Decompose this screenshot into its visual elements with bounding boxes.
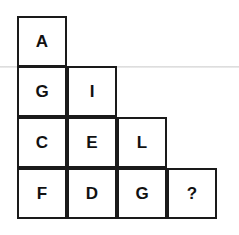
cell-r4-c2: D [67,168,117,219]
cell-r3-c3: L [117,117,167,168]
cell-r4-c4-question: ? [167,168,217,219]
cell-r4-c3: G [117,168,167,219]
cell-r4-c1: F [17,168,67,219]
cell-r1-c1: A [17,16,67,67]
cell-r3-c1: C [17,117,67,168]
cell-r2-c1: G [17,66,67,117]
cell-r2-c2: I [67,66,117,117]
cell-r3-c2: E [67,117,117,168]
